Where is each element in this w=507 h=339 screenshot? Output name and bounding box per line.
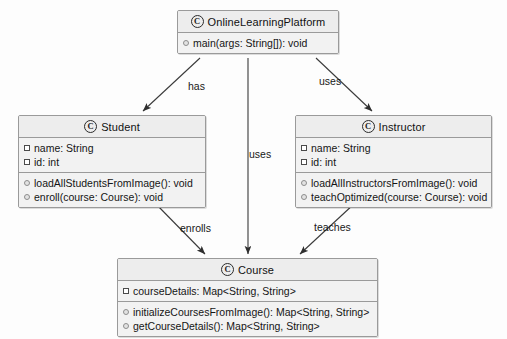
method-label: getCourseDetails(): Map<String, String> xyxy=(133,320,320,332)
class-header-online-learning-platform: C OnlineLearningPlatform xyxy=(178,11,338,33)
method-label: initializeCoursesFromImage(): Map<String… xyxy=(133,306,369,318)
attribute-label: id: int xyxy=(34,156,59,168)
methods-compartment-instructor: loadAllInstructorsFromImage(): void teac… xyxy=(296,172,491,207)
method-row[interactable]: teachOptimized(course: Course): void xyxy=(296,190,491,204)
edge-label-teaches: teaches xyxy=(314,221,351,233)
class-name-label: Course xyxy=(238,264,274,276)
attribute-label: courseDetails: Map<String, String> xyxy=(133,285,296,297)
method-row[interactable]: getCourseDetails(): Map<String, String> xyxy=(118,319,377,333)
class-name-label: OnlineLearningPlatform xyxy=(208,16,326,28)
method-marker-icon xyxy=(123,323,129,329)
method-marker-icon xyxy=(123,309,129,315)
method-row[interactable]: initializeCoursesFromImage(): Map<String… xyxy=(118,305,377,319)
attributes-compartment-instructor: name: String id: int xyxy=(296,138,491,172)
attribute-row[interactable]: id: int xyxy=(19,155,205,169)
methods-compartment-course: initializeCoursesFromImage(): Map<String… xyxy=(118,301,377,336)
method-label: main(args: String[]): void xyxy=(193,37,307,49)
attribute-row[interactable]: id: int xyxy=(296,155,491,169)
uml-class-diagram-canvas: C OnlineLearningPlatform main(args: Stri… xyxy=(0,0,507,339)
attribute-label: name: String xyxy=(311,142,371,154)
method-marker-icon xyxy=(301,180,307,186)
method-label: loadAllStudentsFromImage(): void xyxy=(34,177,193,189)
attribute-marker-icon xyxy=(301,145,307,151)
attribute-marker-icon xyxy=(301,159,307,165)
class-name-label: Instructor xyxy=(379,121,426,133)
class-stereotype-icon: C xyxy=(191,15,204,28)
method-row[interactable]: loadAllInstructorsFromImage(): void xyxy=(296,176,491,190)
edge-label-uses-instructor: uses xyxy=(319,75,341,87)
method-marker-icon xyxy=(24,180,30,186)
class-box-online-learning-platform[interactable]: C OnlineLearningPlatform main(args: Stri… xyxy=(177,10,339,54)
class-box-student[interactable]: C Student name: String id: int loadAllSt… xyxy=(18,115,206,208)
class-header-student: C Student xyxy=(19,116,205,138)
attributes-compartment-course: courseDetails: Map<String, String> xyxy=(118,281,377,301)
method-label: teachOptimized(course: Course): void xyxy=(311,191,487,203)
attribute-marker-icon xyxy=(24,159,30,165)
class-header-course: C Course xyxy=(118,259,377,281)
method-marker-icon xyxy=(301,194,307,200)
method-label: loadAllInstructorsFromImage(): void xyxy=(311,177,477,189)
attribute-row[interactable]: name: String xyxy=(19,141,205,155)
edge-label-enrolls: enrolls xyxy=(180,222,211,234)
method-marker-icon xyxy=(24,194,30,200)
method-marker-icon xyxy=(183,40,189,46)
method-row[interactable]: loadAllStudentsFromImage(): void xyxy=(19,176,205,190)
class-box-course[interactable]: C Course courseDetails: Map<String, Stri… xyxy=(117,258,378,337)
class-box-instructor[interactable]: C Instructor name: String id: int loadAl… xyxy=(295,115,492,208)
method-label: enroll(course: Course): void xyxy=(34,191,163,203)
method-row[interactable]: enroll(course: Course): void xyxy=(19,190,205,204)
attribute-marker-icon xyxy=(24,145,30,151)
edge-label-has: has xyxy=(188,80,205,92)
attribute-row[interactable]: courseDetails: Map<String, String> xyxy=(118,284,377,298)
attributes-compartment-student: name: String id: int xyxy=(19,138,205,172)
class-stereotype-icon: C xyxy=(221,263,234,276)
edge-label-uses-course: uses xyxy=(249,148,271,160)
class-stereotype-icon: C xyxy=(362,120,375,133)
class-stereotype-icon: C xyxy=(84,120,97,133)
attribute-row[interactable]: name: String xyxy=(296,141,491,155)
attribute-label: id: int xyxy=(311,156,336,168)
class-header-instructor: C Instructor xyxy=(296,116,491,138)
class-name-label: Student xyxy=(101,121,140,133)
methods-compartment-online-learning-platform: main(args: String[]): void xyxy=(178,33,338,53)
attribute-marker-icon xyxy=(123,288,129,294)
methods-compartment-student: loadAllStudentsFromImage(): void enroll(… xyxy=(19,172,205,207)
attribute-label: name: String xyxy=(34,142,94,154)
method-row[interactable]: main(args: String[]): void xyxy=(178,36,338,50)
